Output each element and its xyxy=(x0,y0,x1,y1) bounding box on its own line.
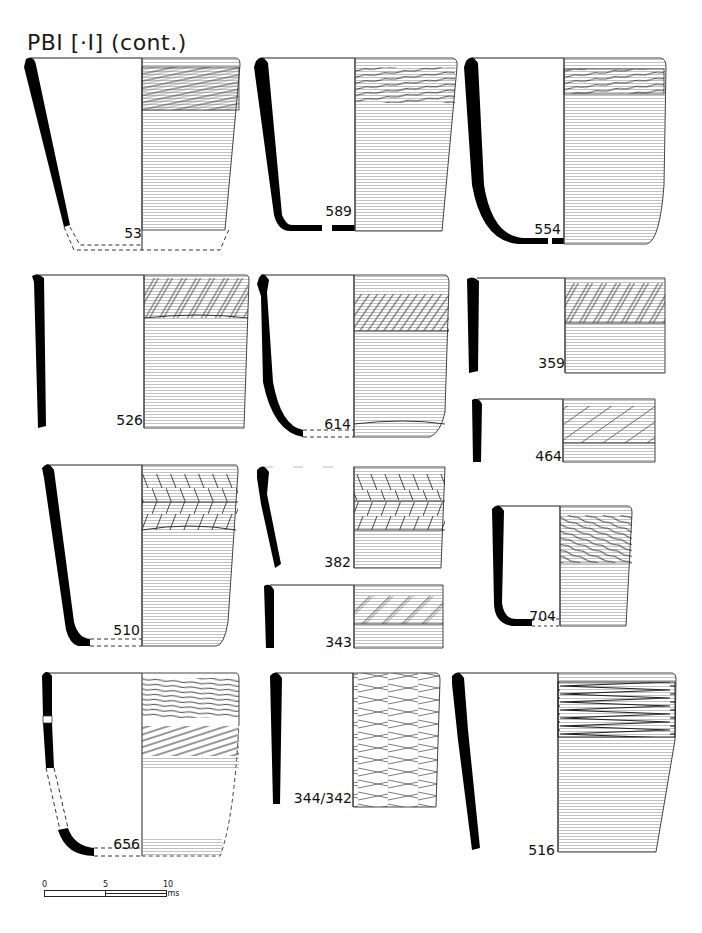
pot-drawing xyxy=(465,275,670,375)
pot-number: 382 xyxy=(324,554,351,570)
pot-drawing xyxy=(255,464,455,574)
pot-drawing xyxy=(462,55,702,250)
pot-656: 656 xyxy=(40,670,250,865)
pot-drawing xyxy=(40,670,250,865)
scale-tick-0: 0 xyxy=(42,880,47,889)
pot-number: 614 xyxy=(324,416,351,432)
scale-bar-first-half xyxy=(44,890,106,897)
pot-359: 359 xyxy=(465,275,670,375)
pot-526: 526 xyxy=(30,272,255,432)
pot-drawing xyxy=(252,55,452,235)
pot-589: 589 xyxy=(252,55,452,235)
pot-drawing xyxy=(450,670,695,865)
pot-number: 526 xyxy=(116,412,143,428)
pot-510: 510 xyxy=(40,462,250,652)
pot-number: 704 xyxy=(529,608,556,624)
pot-drawing xyxy=(255,272,455,447)
pot-number: 510 xyxy=(113,622,140,638)
pot-drawing xyxy=(262,582,452,652)
pot-464: 464 xyxy=(470,396,660,466)
plate-title: PBI [·I] (cont.) xyxy=(27,30,187,55)
pot-382: 382 xyxy=(255,464,455,574)
pot-number: 53 xyxy=(124,225,142,241)
pot-number: 656 xyxy=(113,836,140,852)
pot-drawing xyxy=(490,503,640,633)
pot-drawing xyxy=(40,462,250,652)
pot-number: 359 xyxy=(538,355,565,371)
pot-number: 464 xyxy=(535,448,562,464)
pot-704: 704 xyxy=(490,503,640,633)
pot-number: 343 xyxy=(325,634,352,650)
pot-53: 53 xyxy=(20,55,250,255)
pot-343: 343 xyxy=(262,582,452,652)
pot-516: 516 xyxy=(450,670,695,865)
scale-bar-second-half xyxy=(105,890,167,897)
pot-614: 614 xyxy=(255,272,455,447)
scale-tick-5: 5 xyxy=(103,880,108,889)
pot-number: 344/342 xyxy=(294,790,352,806)
pot-number: 554 xyxy=(534,221,561,237)
pot-number: 516 xyxy=(528,842,555,858)
pot-drawing xyxy=(268,670,448,810)
pot-drawing xyxy=(470,396,660,466)
pot-number: 589 xyxy=(325,203,352,219)
scale-bar: 0 5 10 cms xyxy=(44,880,169,910)
pot-drawing xyxy=(30,272,255,432)
pot-554: 554 xyxy=(462,55,702,250)
pot-344-342: 344/342 xyxy=(268,670,448,810)
